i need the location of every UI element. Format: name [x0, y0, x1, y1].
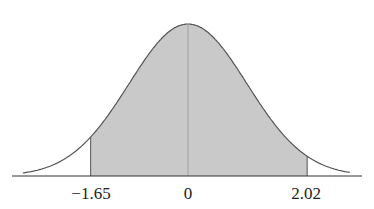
shaded-area: [91, 24, 308, 176]
tick-label-left: −1.65: [71, 184, 110, 203]
tick-label-right: 2.02: [291, 184, 321, 203]
tick-label-center: 0: [184, 184, 193, 203]
normal-curve-chart: −1.65 0 2.02: [0, 0, 374, 209]
